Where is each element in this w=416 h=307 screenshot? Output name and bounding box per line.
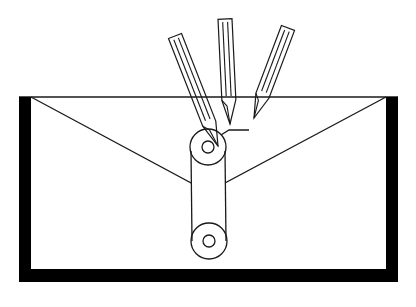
envelope-left-side: [19, 97, 31, 282]
pencil-groove: [174, 40, 206, 121]
pencil-center-icon: [218, 19, 236, 124]
pencils-group: [168, 19, 294, 146]
envelope-right-side: [386, 97, 398, 282]
pencil-groove: [178, 38, 210, 119]
connector-line: [221, 130, 249, 135]
pencil-right-icon: [254, 26, 295, 118]
envelope-pencil-diagram: [0, 0, 416, 307]
pulley-connector: [221, 130, 249, 135]
envelope-bottom-side: [19, 269, 398, 282]
diagram-canvas: [0, 0, 416, 307]
